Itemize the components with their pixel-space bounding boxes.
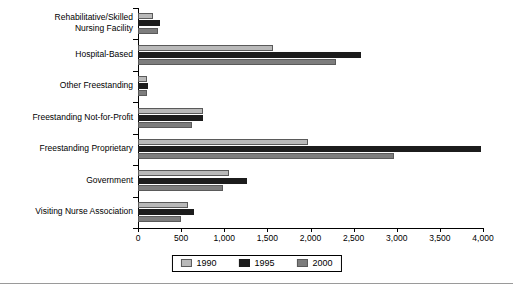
legend-swatch-icon-1995 [238, 259, 249, 267]
y-axis-tick [133, 102, 138, 103]
category-label: Freestanding Not-for-Profit [0, 112, 133, 123]
y-axis-tick [133, 197, 138, 198]
bar-1995-6 [138, 209, 194, 215]
bar-1995-5 [138, 178, 247, 184]
bar-1995-2 [138, 83, 148, 89]
y-axis-tick [133, 134, 138, 135]
bar-1995-1 [138, 52, 361, 58]
y-axis-tick [133, 39, 138, 40]
x-axis-tick [311, 228, 312, 232]
x-axis-tick [440, 228, 441, 232]
x-axis-tick [483, 228, 484, 232]
legend-label-1995: 1995 [254, 258, 274, 268]
x-axis-tick-label: 3,000 [377, 233, 417, 243]
bar-1990-3 [138, 108, 203, 114]
x-axis-tick [181, 228, 182, 232]
legend-item-1995[interactable]: 1995 [238, 258, 274, 268]
bar-1990-2 [138, 76, 147, 82]
x-axis-tick [354, 228, 355, 232]
y-axis-tick [133, 71, 138, 72]
bar-1990-6 [138, 202, 188, 208]
bar-2000-3 [138, 122, 192, 128]
bar-1995-0 [138, 20, 160, 26]
category-axis-labels: Rehabilitative/Skilled Nursing FacilityH… [0, 8, 133, 228]
x-axis-tick [224, 228, 225, 232]
y-axis-tick [133, 228, 138, 229]
x-axis-tick-label: 500 [161, 233, 201, 243]
x-axis-tick-label: 1,000 [204, 233, 244, 243]
legend-swatch-icon-1990 [180, 259, 191, 267]
y-axis-tick [133, 165, 138, 166]
x-axis-tick-label: 0 [118, 233, 158, 243]
x-axis-tick-label: 1,500 [247, 233, 287, 243]
bar-chart: Rehabilitative/Skilled Nursing FacilityH… [0, 0, 513, 291]
bar-2000-6 [138, 216, 181, 222]
legend-item-1990[interactable]: 1990 [180, 258, 216, 268]
legend-label-1990: 1990 [196, 258, 216, 268]
bar-2000-2 [138, 90, 147, 96]
bar-2000-4 [138, 153, 394, 159]
x-axis-tick [267, 228, 268, 232]
legend-item-2000[interactable]: 2000 [297, 258, 333, 268]
category-label: Hospital-Based [0, 49, 133, 60]
plot-area [138, 8, 483, 228]
x-axis-tick-label: 2,000 [291, 233, 331, 243]
bar-2000-5 [138, 185, 223, 191]
bar-1990-5 [138, 170, 229, 176]
y-axis-tick [133, 8, 138, 9]
bar-1995-4 [138, 146, 481, 152]
x-axis-tick-label: 3,500 [420, 233, 460, 243]
x-axis-tick-label: 2,500 [334, 233, 374, 243]
category-label: Freestanding Proprietary [0, 143, 133, 154]
x-axis-tick-label: 4,000 [463, 233, 503, 243]
bar-1990-1 [138, 45, 273, 51]
x-axis-tick [138, 228, 139, 232]
chart-legend: 1990 1995 2000 [171, 255, 341, 272]
category-label: Government [0, 175, 133, 186]
x-axis-tick [397, 228, 398, 232]
category-label: Other Freestanding [0, 80, 133, 91]
footer-divider [0, 283, 513, 284]
bar-2000-0 [138, 28, 158, 34]
bar-1990-0 [138, 13, 153, 19]
bar-1990-4 [138, 139, 308, 145]
legend-label-2000: 2000 [313, 258, 333, 268]
category-label: Visiting Nurse Association [0, 206, 133, 217]
bar-1995-3 [138, 115, 203, 121]
legend-swatch-icon-2000 [297, 259, 308, 267]
category-label: Rehabilitative/Skilled Nursing Facility [0, 12, 133, 33]
bar-2000-1 [138, 59, 336, 65]
